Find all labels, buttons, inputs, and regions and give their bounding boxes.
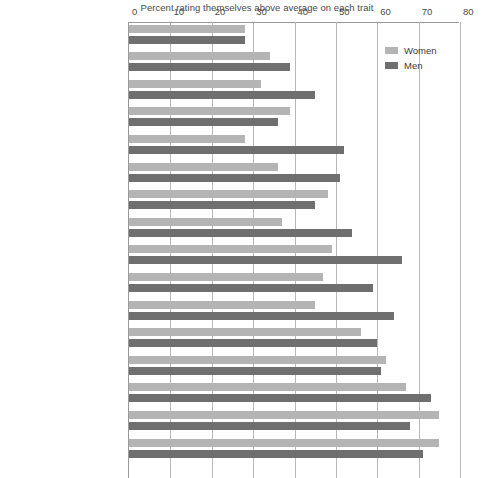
x-tick-label-40: 40 xyxy=(295,6,309,17)
bar-group: Drive to achieve xyxy=(129,408,460,436)
bar-group: Writing ability xyxy=(129,188,460,216)
bar-women xyxy=(129,107,290,115)
bar-women xyxy=(129,190,328,198)
x-tick-label-30: 30 xyxy=(253,6,267,17)
bar-men xyxy=(129,91,315,99)
bar-men xyxy=(129,63,290,71)
bar-women xyxy=(129,135,245,143)
bar-women xyxy=(129,383,406,391)
bar-men xyxy=(129,422,410,430)
bar-group: Computer skills xyxy=(129,132,460,160)
x-tick-label-70: 70 xyxy=(419,6,433,17)
x-tick-label-0: 0 xyxy=(129,6,137,17)
x-tick-label-60: 60 xyxy=(377,6,391,17)
bar-men xyxy=(129,394,431,402)
legend-swatch-icon xyxy=(385,47,398,54)
legend-label: Women xyxy=(404,45,437,56)
bar-men xyxy=(129,367,381,375)
legend-swatch-icon xyxy=(385,62,398,69)
chart-legend: WomenMen xyxy=(385,44,437,74)
bar-women xyxy=(129,218,282,226)
bar-men xyxy=(129,36,245,44)
bar-women xyxy=(129,273,323,281)
bar-group: Academic ability xyxy=(129,381,460,409)
bar-women xyxy=(129,356,386,364)
bar-women xyxy=(129,52,270,60)
bar-women xyxy=(129,439,439,447)
bar-men xyxy=(129,284,373,292)
bar-group: Physical health xyxy=(129,298,460,326)
bar-group: Mathematical ability xyxy=(129,215,460,243)
bar-group: Leadership ability xyxy=(129,326,460,354)
bar-women xyxy=(129,80,261,88)
x-tick-label-80: 80 xyxy=(460,6,474,17)
bar-women xyxy=(129,25,245,33)
x-tick-label-50: 50 xyxy=(336,6,350,17)
bar-chart: Percent rating themselves above average … xyxy=(0,0,486,478)
bar-men xyxy=(129,174,340,182)
chart-title: Percent rating themselves above average … xyxy=(0,2,486,13)
legend-label: Men xyxy=(404,60,422,71)
bar-women xyxy=(129,301,315,309)
x-tick-label-10: 10 xyxy=(170,6,184,17)
bar-group: Emotional health xyxy=(129,270,460,298)
bar-men xyxy=(129,256,402,264)
legend-item: Men xyxy=(385,59,437,72)
bar-women xyxy=(129,411,439,419)
bar-women xyxy=(129,328,361,336)
bar-men xyxy=(129,312,394,320)
bar-men xyxy=(129,229,352,237)
x-tick-label-20: 20 xyxy=(212,6,226,17)
bar-group: Risk taking xyxy=(129,160,460,188)
bar-men xyxy=(129,339,377,347)
bar-men xyxy=(129,201,315,209)
bar-group: Cooperativeness xyxy=(129,436,460,464)
bar-group: Popularity xyxy=(129,77,460,105)
bar-men xyxy=(129,118,278,126)
gridline-80 xyxy=(460,22,461,478)
bar-group: Spirituality xyxy=(129,105,460,133)
bar-group: Self-confidence xyxy=(129,243,460,271)
bar-men xyxy=(129,146,344,154)
legend-item: Women xyxy=(385,44,437,57)
bar-men xyxy=(129,450,423,458)
bar-women xyxy=(129,163,278,171)
plot-area: 01020304050607080 Artistic abilityPublic… xyxy=(128,22,460,478)
bar-group: Understanding of others xyxy=(129,353,460,381)
bar-women xyxy=(129,245,332,253)
